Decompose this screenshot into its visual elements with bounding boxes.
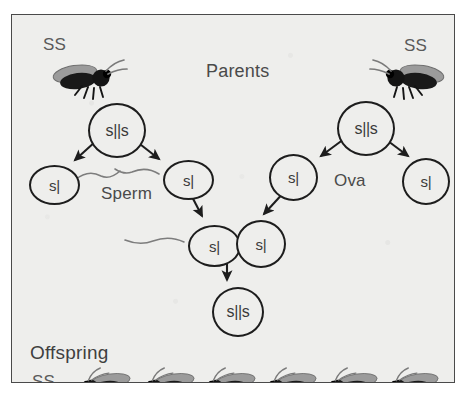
parent-left-phenotype-label: SS [43,36,66,53]
fruit-fly-icon-parent-left [48,57,132,101]
fertilizing-ovum-genotype: s| [256,237,267,252]
sperm-label: Sperm [101,185,152,202]
offspring-title: Offspring [30,343,109,362]
fertilizing-sperm-cell: s| [188,225,241,267]
parent-left-diploid-genotype: s||s [105,123,128,139]
ovum-cell-2: s| [402,158,450,205]
fruit-fly-icon-offspring [78,367,150,383]
parent-left-diploid-cell: s||s [88,103,146,158]
sperm-cell-1-genotype: s| [49,178,60,193]
zygote-cell: s||s [212,287,264,337]
parent-right-phenotype-label: SS [404,37,427,54]
fertilizing-sperm-genotype: s| [209,239,220,254]
ovum-cell-1: s| [269,154,318,201]
sperm-cell-1: s| [29,165,80,205]
zygote-genotype: s||s [226,304,249,320]
fertilizing-ovum-cell: s| [236,220,286,268]
parent-right-diploid-genotype: s||s [354,121,377,137]
sperm-cell-2-genotype: s| [183,173,194,188]
fruit-fly-icon-offspring [386,367,455,383]
ova-label: Ova [334,172,366,189]
parents-title: Parents [206,62,269,80]
fruit-fly-icon-parent-right [365,57,449,101]
ovum-cell-1-genotype: s| [288,170,299,185]
offspring-phenotype-label: SS [32,373,55,383]
diagram-panel: s||s s||s s| s| s| s| s| s| s||s Parents… [11,14,455,383]
sperm-cell-2: s| [163,160,214,200]
ovum-cell-2-genotype: s| [421,174,432,189]
parent-right-diploid-cell: s||s [337,101,395,156]
genetics-diagram-figure: s||s s||s s| s| s| s| s| s| s||s Parents… [0,0,471,403]
